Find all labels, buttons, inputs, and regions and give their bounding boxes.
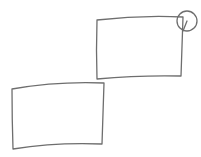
lower-rectangle[interactable] [12, 83, 104, 149]
sketch-canvas [0, 0, 201, 157]
upper-rectangle[interactable] [97, 16, 184, 79]
handle-connector-line [183, 21, 187, 31]
